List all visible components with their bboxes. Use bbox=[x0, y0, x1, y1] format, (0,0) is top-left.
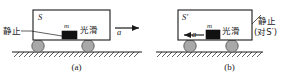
state-label-b: 静止 bbox=[258, 17, 276, 26]
accel-label-a: a bbox=[117, 28, 121, 37]
surface-label-b: 光滑 bbox=[222, 27, 240, 36]
accel-arrow-head bbox=[132, 25, 139, 31]
frame-label-a: S bbox=[38, 13, 42, 22]
physics-figure: 静止 S m 光滑 a (a) bbox=[0, 0, 306, 80]
wheel-rear bbox=[184, 40, 196, 52]
block-mass bbox=[62, 31, 77, 39]
ground-hatching bbox=[14, 52, 139, 57]
surface-label-a: 光滑 bbox=[80, 26, 98, 35]
wheel-front bbox=[226, 40, 238, 52]
accel-label-b: a bbox=[192, 30, 196, 39]
mass-label-a: m bbox=[64, 23, 69, 30]
wheel-front bbox=[82, 40, 94, 52]
caption-b: (b) bbox=[153, 62, 306, 72]
block-mass bbox=[206, 30, 220, 39]
frame-label-b: S′ bbox=[182, 13, 188, 22]
state-qualifier-b: (对S′) bbox=[254, 28, 277, 37]
panel-b: S′ a m 光滑 静止 (对S′) (b) bbox=[153, 0, 306, 80]
panel-a: 静止 S m 光滑 a (a) bbox=[0, 0, 153, 80]
mass-label-b: m bbox=[207, 23, 212, 30]
caption-a: (a) bbox=[0, 62, 153, 72]
wheel-rear bbox=[32, 40, 44, 52]
state-label-a: 静止 bbox=[3, 27, 21, 36]
ground-hatching bbox=[157, 52, 262, 57]
